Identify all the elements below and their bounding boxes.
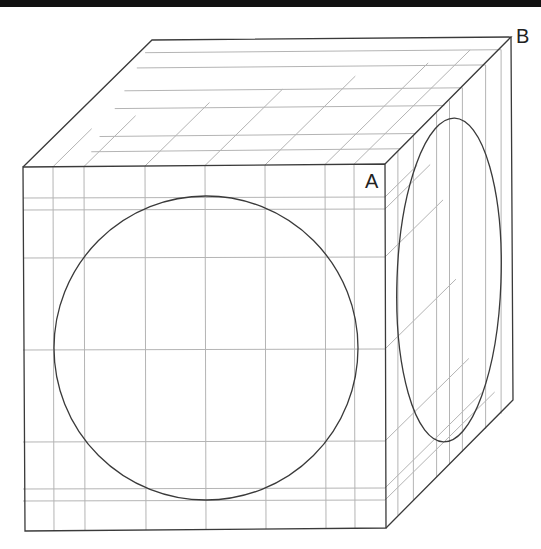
top-grid-receding: [205, 89, 282, 165]
inscribed-curves: [54, 116, 507, 500]
top-grid-horizontal: [145, 50, 501, 53]
top-grid-receding: [84, 116, 136, 167]
construction-grid: [23, 50, 501, 531]
front-grid-vertical: [145, 166, 146, 530]
cube-edges: [23, 37, 513, 531]
cube-diagram: A B: [0, 0, 541, 549]
front-grid-horizontal: [23, 349, 385, 350]
front-grid-horizontal: [23, 441, 385, 442]
top-grid-horizontal: [137, 65, 486, 68]
front-grid-horizontal: [23, 197, 385, 198]
top-grid-horizontal: [124, 88, 462, 91]
front-face-outline: [23, 164, 386, 531]
right-grid-receding: [385, 165, 417, 197]
top-grid-horizontal: [91, 149, 400, 152]
top-face-outline: [23, 37, 511, 167]
right-grid-receding: [385, 279, 456, 349]
right-grid-receding: [385, 165, 430, 209]
front-grid-horizontal: [23, 257, 385, 258]
front-grid-vertical: [205, 165, 206, 529]
top-grid-receding: [354, 50, 470, 164]
top-grid-horizontal: [100, 134, 416, 137]
front-grid-vertical: [325, 164, 326, 528]
right-grid-receding: [385, 393, 482, 488]
top-grid-horizontal: [115, 106, 445, 109]
right-grid-receding: [385, 392, 495, 500]
top-grid-receding: [145, 102, 210, 166]
front-grid-horizontal: [23, 488, 385, 489]
front-grid-vertical: [354, 164, 355, 528]
right-grid-receding: [385, 200, 443, 257]
top-grid-receding: [53, 129, 92, 167]
vertex-label-a: A: [365, 170, 379, 192]
vertex-label-b: B: [516, 25, 529, 47]
front-grid-horizontal: [23, 209, 385, 210]
front-grid-vertical: [84, 166, 85, 530]
front-grid-vertical: [265, 165, 266, 529]
